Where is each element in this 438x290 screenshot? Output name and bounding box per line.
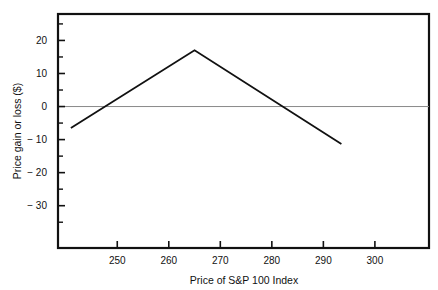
y-tick-label: − 30	[27, 200, 47, 211]
y-tick-label: 10	[36, 68, 48, 79]
chart-background	[0, 0, 438, 290]
x-axis-title: Price of S&P 100 Index	[190, 274, 299, 286]
y-axis-title: Price gain or loss ($)	[11, 83, 23, 179]
x-tick-label: 280	[263, 255, 280, 266]
x-tick-label: 290	[315, 255, 332, 266]
x-tick-label: 300	[367, 255, 384, 266]
x-tick-label: 270	[212, 255, 229, 266]
chart-figure: 20100− 10− 20− 30 250260270280290300 Pri…	[0, 0, 438, 290]
x-tick-label: 250	[109, 255, 126, 266]
price-gain-loss-line-chart: 20100− 10− 20− 30 250260270280290300 Pri…	[0, 0, 438, 290]
x-tick-label: 260	[160, 255, 177, 266]
y-tick-label: 20	[36, 35, 48, 46]
y-tick-label: − 20	[27, 167, 47, 178]
y-tick-label: 0	[41, 101, 47, 112]
y-tick-label: − 10	[27, 134, 47, 145]
